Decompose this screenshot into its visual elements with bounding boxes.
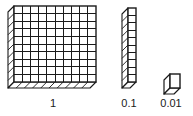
label-hundredth: 0.01 xyxy=(150,97,192,110)
label-one: 1 xyxy=(8,97,98,110)
ten-rod-block xyxy=(114,0,154,96)
cube-front-face xyxy=(170,74,180,88)
base-ten-blocks-figure: 1 0.1 0.01 xyxy=(0,0,193,116)
hundred-flat-block xyxy=(0,0,110,96)
label-tenth: 0.1 xyxy=(112,97,146,110)
unit-cube-block xyxy=(152,0,193,96)
